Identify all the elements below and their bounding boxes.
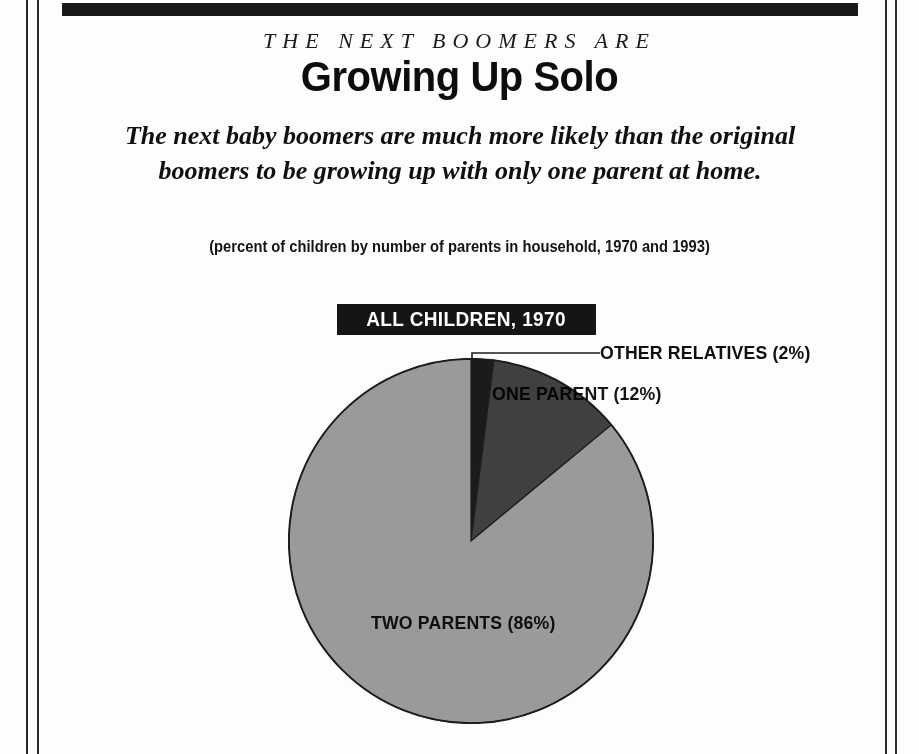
article-eyebrow: THE NEXT BOOMERS ARE: [0, 28, 919, 54]
page-frame-rule-left-outer: [26, 0, 28, 754]
leader-line-path: [472, 353, 600, 373]
pie-slice-group: [289, 359, 653, 723]
pie-label-two-parents: TWO PARENTS (86%): [371, 612, 555, 634]
pie-chart-svg: [288, 358, 654, 724]
chart-title: ALL CHILDREN, 1970: [367, 308, 567, 331]
page-frame-rule-right-outer: [895, 0, 897, 754]
page-frame-rule-left-inner: [37, 0, 39, 754]
chart-title-plate: ALL CHILDREN, 1970: [337, 304, 596, 335]
top-heavy-rule: [62, 3, 858, 16]
pie-label-other-relatives: OTHER RELATIVES (2%): [600, 342, 811, 364]
pie-label-one-parent: ONE PARENT (12%): [492, 383, 662, 405]
article-page: THE NEXT BOOMERS ARE Growing Up Solo The…: [0, 0, 919, 754]
article-subdeck: (percent of children by number of parent…: [37, 238, 882, 256]
page-title: Growing Up Solo: [32, 52, 887, 101]
page-frame-rule-right-inner: [885, 0, 887, 754]
pie-chart: [288, 358, 654, 724]
article-deck: The next baby boomers are much more like…: [118, 118, 802, 188]
